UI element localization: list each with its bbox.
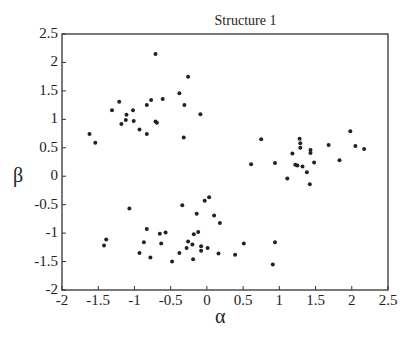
data-point <box>145 227 149 231</box>
data-point <box>110 108 114 112</box>
y-tick-label: 0.5 <box>18 140 58 155</box>
data-point <box>285 177 289 181</box>
data-point <box>198 112 202 116</box>
data-point <box>195 212 199 216</box>
data-point <box>149 98 153 102</box>
data-point <box>88 132 92 136</box>
data-point <box>249 162 253 166</box>
data-point <box>301 165 305 169</box>
data-point <box>102 244 106 248</box>
data-point <box>186 240 190 244</box>
data-point <box>127 207 131 211</box>
x-tick-label: -0.5 <box>151 293 191 308</box>
scatter-plot <box>0 0 419 339</box>
data-point <box>259 137 263 141</box>
data-point <box>104 237 108 241</box>
data-point <box>242 241 246 245</box>
data-point <box>192 232 196 236</box>
y-tick-label: 2 <box>18 54 58 69</box>
y-tick-label: -1.5 <box>18 254 58 269</box>
data-point <box>148 256 152 260</box>
x-axis-label: α <box>215 305 225 328</box>
data-point <box>155 121 159 125</box>
data-point <box>138 128 142 132</box>
data-point <box>233 253 237 257</box>
data-point <box>164 231 168 235</box>
data-point <box>186 75 190 79</box>
data-point <box>117 100 121 104</box>
data-point <box>145 103 149 107</box>
data-point <box>182 136 186 140</box>
data-point <box>298 146 302 150</box>
y-tick-label: 1 <box>18 111 58 126</box>
y-tick-label: -0.5 <box>18 197 58 212</box>
data-points <box>88 52 367 267</box>
data-point <box>191 257 195 261</box>
data-point <box>190 243 194 247</box>
x-tick-label: -1.5 <box>78 293 118 308</box>
data-point <box>290 152 294 156</box>
data-point <box>124 118 128 122</box>
data-point <box>182 103 186 107</box>
data-point <box>119 122 123 126</box>
data-point <box>132 119 136 123</box>
data-point <box>295 163 299 167</box>
data-point <box>93 141 97 145</box>
data-point <box>206 246 210 250</box>
data-point <box>207 195 211 199</box>
data-point <box>138 251 142 255</box>
data-point <box>158 232 162 236</box>
x-tick-label: 0.5 <box>223 293 263 308</box>
data-point <box>298 137 302 141</box>
data-point <box>362 147 366 151</box>
data-point <box>199 249 203 253</box>
data-point <box>273 240 277 244</box>
data-point <box>159 241 163 245</box>
data-point <box>177 251 181 255</box>
data-point <box>218 221 222 225</box>
x-tick-label: 1 <box>259 293 299 308</box>
data-point <box>305 170 309 174</box>
data-point <box>145 132 149 136</box>
data-point <box>170 260 174 264</box>
x-tick-label: -1 <box>114 293 154 308</box>
data-point <box>309 151 313 155</box>
data-point <box>217 252 221 256</box>
data-point <box>142 240 146 244</box>
data-point <box>212 214 216 218</box>
data-point <box>348 129 352 133</box>
y-tick-label: -2 <box>18 282 58 297</box>
data-point <box>327 143 331 147</box>
data-point <box>154 52 158 56</box>
data-point <box>271 262 275 266</box>
y-tick-label: 2.5 <box>18 26 58 41</box>
data-point <box>185 246 189 250</box>
data-point <box>196 230 200 234</box>
data-point <box>199 244 203 248</box>
data-point <box>308 182 312 186</box>
x-tick-label: 1.5 <box>296 293 336 308</box>
x-tick-label: 2.5 <box>368 293 408 308</box>
y-tick-label: 1.5 <box>18 83 58 98</box>
data-point <box>131 108 135 112</box>
data-point <box>180 203 184 207</box>
data-point <box>298 141 302 145</box>
chart-title: Structure 1 <box>0 13 419 29</box>
data-point <box>353 144 357 148</box>
x-tick-label: 0 <box>187 293 227 308</box>
data-point <box>338 158 342 162</box>
data-point <box>203 199 207 203</box>
y-tick-label: -1 <box>18 225 58 240</box>
y-tick-label: 0 <box>18 168 58 183</box>
data-point <box>161 97 165 101</box>
data-point <box>177 91 181 95</box>
data-point <box>312 161 316 165</box>
data-point <box>125 113 129 117</box>
x-tick-label: 2 <box>332 293 372 308</box>
data-point <box>273 161 277 165</box>
